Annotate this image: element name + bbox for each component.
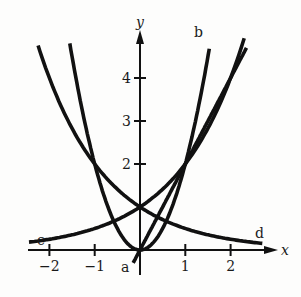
y-tick-label: 4 <box>122 70 131 86</box>
y-axis-arrow-icon <box>136 30 144 44</box>
curve-c <box>29 38 244 242</box>
y-axis-label: y <box>135 14 145 30</box>
x-tick-label: 2 <box>226 258 235 274</box>
x-tick-label: 1 <box>181 258 190 274</box>
curve-d <box>38 46 262 244</box>
x-axis-label: x <box>281 242 289 258</box>
curves <box>29 38 262 263</box>
curve-label-b: b <box>194 24 203 40</box>
curve-label-a: a <box>121 259 129 275</box>
y-tick-label: 2 <box>122 156 131 172</box>
x-tick-label: −2 <box>39 258 60 274</box>
x-tick-label: −1 <box>84 258 105 274</box>
graph-canvas: xy−2−112234abcd <box>0 0 301 297</box>
y-tick-label: 3 <box>122 113 131 129</box>
curve-label-d: d <box>255 225 264 241</box>
axes <box>28 30 278 275</box>
curve-label-c: c <box>37 232 45 248</box>
x-axis-arrow-icon <box>264 246 278 254</box>
